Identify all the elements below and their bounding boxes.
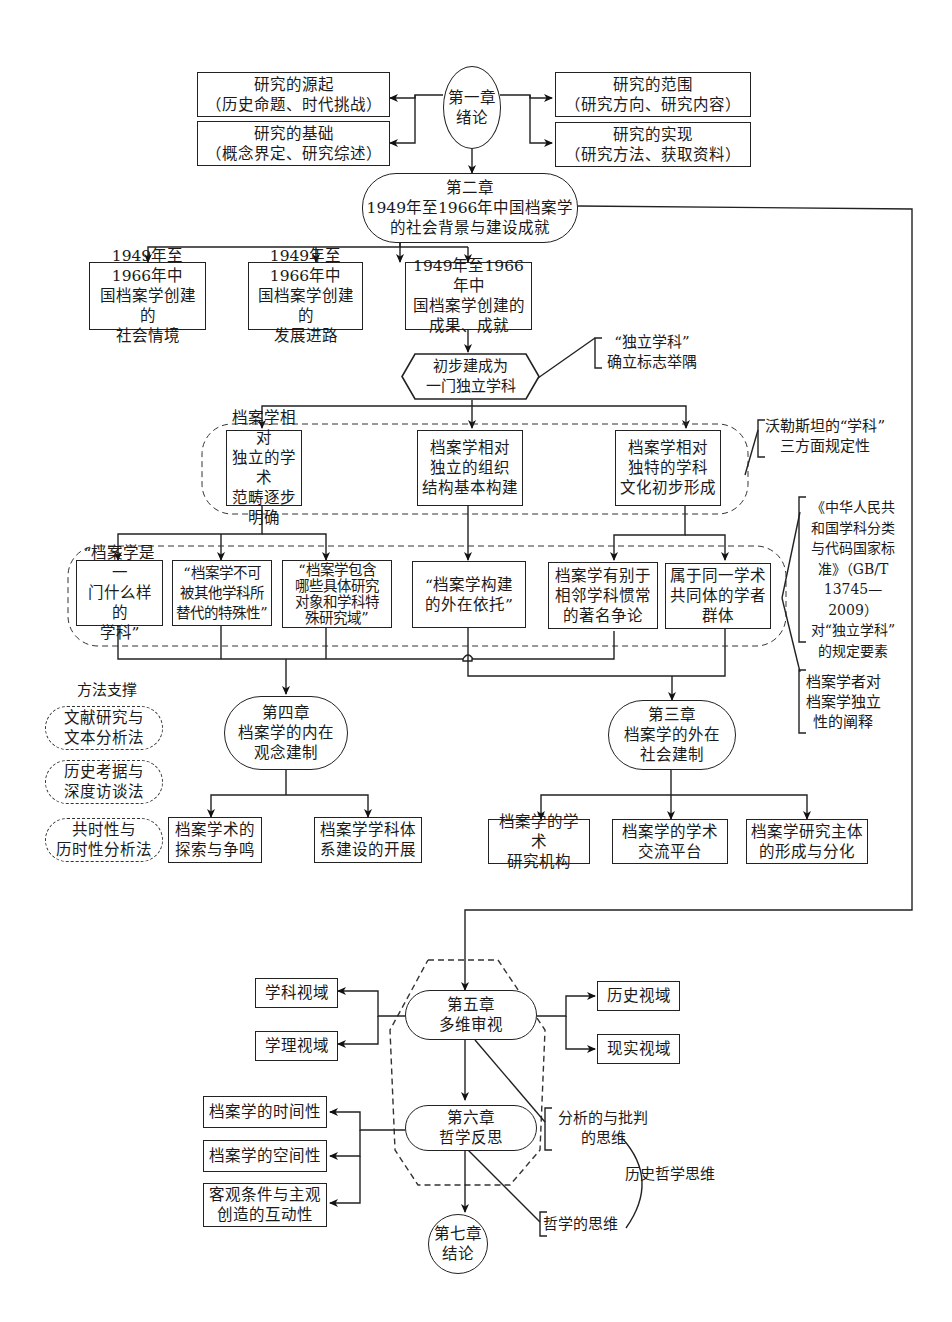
element-text: 属于同一学术 共同体的学者 群体 (670, 566, 766, 626)
element-text: “档案学是一 门什么样的 学科” (80, 543, 159, 643)
chapter4-child-exploration: 档案学术的 探索与争鸣 (168, 817, 262, 863)
method-literature-text-analysis: 文献研究与 文本分析法 (45, 706, 163, 750)
method-historical-interview: 历史考据与 深度访谈法 (45, 760, 163, 804)
chapter3-title: 第三章 档案学的外在 社会建制 (624, 705, 720, 765)
chapter3-node: 第三章 档案学的外在 社会建制 (608, 700, 736, 770)
element-irreplaceability: “档案学不可 被其他学科所 替代的特殊性” (172, 560, 272, 626)
method-text: 文献研究与 文本分析法 (64, 708, 144, 748)
aspect-text: 档案学相对 独立的组织 结构基本构建 (422, 438, 518, 498)
chapter3-child-text: 档案学研究主体 的形成与分化 (751, 822, 863, 862)
interaction-box: 客观条件与主观 创造的互动性 (203, 1183, 327, 1227)
independent-discipline-note: “独立学科” 确立标志举隅 (602, 332, 702, 372)
aspect-text: 档案学相对 独特的学科 文化初步形成 (620, 438, 716, 498)
research-scope-box: 研究的范围 （研究方向、研究内容） (555, 72, 751, 117)
element-text: “档案学包含 哪些具体研究 对象和学科特 殊研究域” (295, 562, 379, 626)
chapter6-left-text: 客观条件与主观 创造的互动性 (209, 1185, 321, 1225)
chapter5-title: 第五章 多维审视 (439, 995, 503, 1035)
chapter6-title: 第六章 哲学反思 (439, 1108, 503, 1148)
analytic-critical-thinking: 分析的与批判 的思维 (549, 1108, 657, 1148)
research-framework-diagram: 研究的源起 （历史命题、时代挑战） 研究的基础 （概念界定、研究综述） 第一章 … (0, 0, 952, 1322)
research-implementation-box: 研究的实现 （研究方法、获取资料） (555, 122, 751, 167)
aspect-text: 档案学相对 独立的学术 范畴逐步明确 (230, 408, 298, 528)
method-text: 共时性与 历时性分析法 (56, 820, 152, 860)
chapter6-node: 第六章 哲学反思 (405, 1105, 537, 1151)
wallerstein-note: 沃勒斯坦的“学科” 三方面规定性 (760, 416, 890, 456)
chapter3-child-research-subjects: 档案学研究主体 的形成与分化 (746, 819, 868, 864)
element-famous-debates: 档案学有别于 相邻学科惯常 的著名争论 (548, 562, 658, 629)
element-text: “档案学不可 被其他学科所 替代的特殊性” (176, 563, 267, 623)
research-origin-detail: （历史命题、时代挑战） (206, 96, 382, 114)
chapter2-node: 第二章 1949年至1966年中国档案学 的社会背景与建设成就 (362, 173, 578, 243)
methods-heading: 方法支撑 (52, 680, 162, 700)
chapter3-child-institutions: 档案学的学术 研究机构 (488, 819, 590, 864)
chapter2-title: 第二章 1949年至1966年中国档案学 的社会背景与建设成就 (367, 178, 574, 238)
aspect-organization-structure: 档案学相对 独立的组织 结构基本构建 (417, 430, 523, 506)
aspect-discipline-culture: 档案学相对 独特的学科 文化初步形成 (615, 430, 721, 506)
chapter4-child-system-building: 档案学学科体 系建设的开展 (314, 817, 422, 863)
chapter4-child-text: 档案学学科体 系建设的开展 (320, 820, 416, 860)
perspective-text: 学理视域 (265, 1036, 329, 1056)
perspective-text: 学科视域 (265, 983, 329, 1003)
research-implementation-detail: （研究方法、获取资料） (565, 146, 741, 164)
chapter3-child-text: 档案学的学术 交流平台 (622, 822, 718, 862)
reality-perspective-box: 现实视域 (597, 1034, 680, 1064)
chapter4-node: 第四章 档案学的内在 观念建制 (224, 696, 348, 770)
chapter6-left-text: 档案学的时间性 (209, 1102, 321, 1122)
chapter2-child-text: 1949年至1966年中 国档案学创建的 社会情境 (93, 246, 202, 346)
chapter4-title: 第四章 档案学的内在 观念建制 (238, 703, 334, 763)
research-origin-title: 研究的源起 (254, 76, 334, 94)
chapter7-title: 第七章 结论 (434, 1224, 482, 1264)
research-implementation-title: 研究的实现 (613, 126, 693, 144)
method-text: 历史考据与 深度访谈法 (64, 762, 144, 802)
research-origin-box: 研究的源起 （历史命题、时代挑战） (197, 72, 390, 117)
chapter2-child-achievements: 1949年至1966年中 国档案学创建的 成果、成就 (405, 262, 532, 330)
element-external-support: “档案学构建 的外在依托” (412, 561, 526, 628)
temporality-box: 档案学的时间性 (203, 1096, 327, 1128)
perspective-text: 现实视域 (607, 1039, 671, 1059)
research-foundation-detail: （概念界定、研究综述） (206, 145, 382, 163)
scholars-interpretation-note: 档案学者对 档案学独立 性的阐释 (803, 672, 883, 732)
chapter2-child-social-context: 1949年至1966年中 国档案学创建的 社会情境 (89, 262, 206, 330)
chapter2-child-text: 1949年至1966年中 国档案学创建的 发展进路 (252, 246, 359, 346)
research-implementation-text: 研究的实现 （研究方法、获取资料） (565, 125, 741, 165)
chapter5-node: 第五章 多维审视 (405, 990, 537, 1040)
national-standard-note: 《中华人民共 和国学科分类 与代码国家标 准》（GB/T 13745—2009）… (803, 497, 903, 661)
independent-discipline-label: 初步建成为 一门独立学科 (401, 356, 540, 396)
chapter6-left-text: 档案学的空间性 (209, 1146, 321, 1166)
chapter3-child-text: 档案学的学术 研究机构 (492, 812, 586, 872)
spatiality-box: 档案学的空间性 (203, 1140, 327, 1172)
chapter3-child-exchange-platform: 档案学的学术 交流平台 (612, 819, 728, 864)
chapter4-child-text: 档案学术的 探索与争鸣 (175, 820, 255, 860)
chapter1-node: 第一章 绪论 (443, 66, 501, 149)
element-scholar-community: 属于同一学术 共同体的学者 群体 (665, 563, 771, 629)
research-scope-title: 研究的范围 (613, 76, 693, 94)
research-scope-detail: （研究方向、研究内容） (565, 96, 741, 114)
research-scope-text: 研究的范围 （研究方向、研究内容） (565, 75, 741, 115)
chapter2-child-development-path: 1949年至1966年中 国档案学创建的 发展进路 (248, 262, 363, 330)
historical-perspective-box: 历史视域 (597, 981, 680, 1011)
historical-philosophy-thinking: 历史哲学思维 (610, 1164, 730, 1184)
research-foundation-text: 研究的基础 （概念界定、研究综述） (206, 124, 382, 164)
aspect-academic-category: 档案学相对 独立的学术 范畴逐步明确 (226, 430, 302, 506)
research-foundation-title: 研究的基础 (254, 125, 334, 143)
discipline-perspective-box: 学科视域 (255, 978, 338, 1008)
element-research-objects: “档案学包含 哪些具体研究 对象和学科特 殊研究域” (282, 560, 392, 628)
chapter2-child-text: 1949年至1966年中 国档案学创建的 成果、成就 (409, 256, 528, 336)
chapter7-node: 第七章 结论 (428, 1214, 488, 1274)
method-synchronic-diachronic: 共时性与 历时性分析法 (45, 818, 163, 862)
element-text: “档案学构建 的外在依托” (425, 575, 513, 615)
perspective-text: 历史视域 (607, 986, 671, 1006)
research-origin-text: 研究的源起 （历史命题、时代挑战） (206, 75, 382, 115)
philosophical-thinking: 哲学的思维 (540, 1214, 620, 1234)
theory-perspective-box: 学理视域 (255, 1031, 338, 1061)
independent-discipline-hexagon: 初步建成为 一门独立学科 (401, 353, 540, 400)
element-text: 档案学有别于 相邻学科惯常 的著名争论 (555, 566, 651, 626)
chapter1-title: 第一章 绪论 (448, 88, 496, 128)
element-what-discipline: “档案学是一 门什么样的 学科” (76, 560, 163, 626)
research-foundation-box: 研究的基础 （概念界定、研究综述） (197, 121, 390, 166)
